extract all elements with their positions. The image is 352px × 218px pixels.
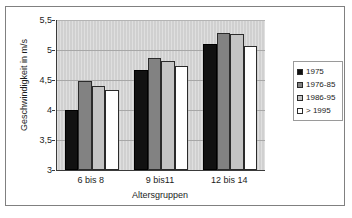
legend-swatch-icon: [297, 69, 303, 75]
y-axis-tick-label: 3,5: [26, 136, 52, 145]
y-axis-ticks: 5,554,543,53: [24, 20, 52, 170]
bar-1976-85-9-bis11: [148, 58, 162, 170]
y-axis-tick-mark: [52, 170, 55, 171]
y-axis-tick-mark: [52, 20, 55, 21]
y-axis-tick-label: 4: [26, 106, 52, 115]
bar-1975-6-bis-8: [65, 110, 79, 170]
y-axis-tick-mark: [52, 140, 55, 141]
legend-swatch-icon: [297, 95, 303, 101]
legend-item: 1975: [297, 65, 340, 78]
bar-1995-9-bis11: [175, 66, 189, 170]
legend-item-label: 1986-95: [306, 94, 335, 102]
legend-item-label: > 1995: [306, 107, 331, 115]
bar-1975-12-bis-14: [203, 44, 217, 170]
y-axis-tick-label: 4,5: [26, 76, 52, 85]
plot-area: [56, 20, 265, 171]
legend-item: 1986-95: [297, 91, 340, 104]
bar-1995-12-bis-14: [244, 46, 258, 170]
y-axis-tick-label: 5: [26, 46, 52, 55]
chart-figure: Geschwindigkeit in m/s 5,554,543,53 6 bi…: [0, 0, 352, 218]
bar-1986-95-12-bis-14: [230, 34, 244, 170]
bar-1986-95-9-bis11: [161, 61, 175, 170]
gridline: [57, 20, 265, 21]
bar-1976-85-12-bis-14: [217, 33, 231, 170]
y-axis-tick-label: 3: [26, 166, 52, 175]
x-axis-tick-label: 12 bis 14: [194, 175, 264, 185]
x-axis-tick-label: 6 bis 8: [56, 175, 126, 185]
legend-swatch-icon: [297, 82, 303, 88]
bar-1976-85-6-bis-8: [78, 81, 92, 170]
x-axis-title: Altersgruppen: [56, 190, 264, 200]
y-axis-tick-mark: [52, 80, 55, 81]
chart-legend: 19751976-851986-95> 1995: [293, 61, 343, 121]
bar-1986-95-6-bis-8: [92, 86, 106, 170]
legend-item: 1976-85: [297, 78, 340, 91]
legend-item-label: 1976-85: [306, 81, 335, 89]
legend-swatch-icon: [297, 108, 303, 114]
legend-item: > 1995: [297, 104, 340, 117]
y-axis-tick-mark: [52, 50, 55, 51]
bar-1995-6-bis-8: [105, 90, 119, 170]
x-axis-tick-label: 9 bis11: [125, 175, 195, 185]
legend-item-label: 1975: [306, 68, 324, 76]
y-axis-tick-mark: [52, 110, 55, 111]
y-axis-tick-label: 5,5: [26, 16, 52, 25]
bar-1975-9-bis11: [134, 70, 148, 170]
